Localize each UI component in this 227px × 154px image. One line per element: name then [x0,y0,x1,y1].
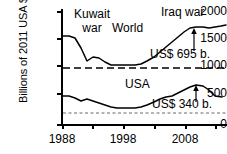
annotation-iraq-war: Iraq war [161,6,204,19]
iraq-war-arrowhead-world [191,28,197,34]
series-label-usa: USA [125,78,150,91]
series-label-world: World [112,22,143,35]
annotation-world-value: US$ 695 b. [150,48,210,61]
annotation-kuwait-war-line1: Kuwait [63,8,121,21]
spending-chart: Billions of 2011 USA $ 2000 1500 1000 50… [0,0,227,154]
annotation-usa-value: US$ 340 b. [152,98,212,111]
